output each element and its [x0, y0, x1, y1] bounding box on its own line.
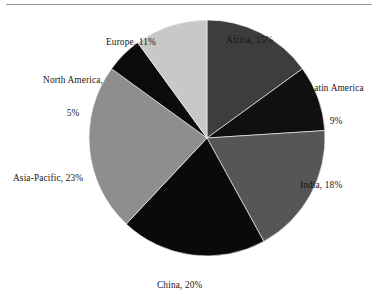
- pie-label-asia-pacific-line-1: Asia-Pacific, 23%: [13, 173, 83, 184]
- pie-label-china: China, 20%: [157, 258, 202, 294]
- pie-label-north-america-line-2: 5%: [24, 108, 122, 119]
- pie-label-europe: Europe, 11%: [106, 15, 156, 70]
- pie-label-north-america-line-1: North America,: [24, 75, 122, 86]
- pie-label-africa: Africa, 15%: [226, 13, 273, 68]
- pie-label-india-line-1: India, 18%: [300, 180, 342, 191]
- pie-label-india: India, 18%: [300, 158, 342, 213]
- pie-label-latin-america-line-1: Latin America: [299, 83, 373, 94]
- pie-label-china-line-1: China, 20%: [157, 280, 202, 291]
- pie-label-asia-pacific: Asia-Pacific, 23%: [13, 151, 83, 206]
- pie-label-africa-line-1: Africa, 15%: [226, 35, 273, 46]
- pie-label-latin-america: Latin America 9%: [299, 61, 373, 149]
- pie-label-latin-america-line-2: 9%: [299, 116, 373, 127]
- pie-label-europe-line-1: Europe, 11%: [106, 37, 156, 48]
